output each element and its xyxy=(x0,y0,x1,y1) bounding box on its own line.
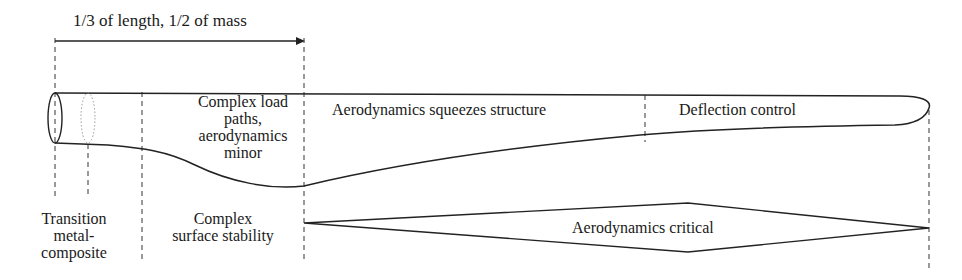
surface-stability-label: Complex surface stability xyxy=(158,210,288,244)
mid-region-label: Aerodynamics squeezes structure xyxy=(332,101,546,118)
blade-diagram xyxy=(0,0,962,280)
root-ellipse xyxy=(48,93,62,143)
aero-critical-label: Aerodynamics critical xyxy=(572,219,714,236)
transition-ellipse xyxy=(81,93,95,143)
root-region-label: Complex load paths, aerodynamics minor xyxy=(184,93,302,161)
length-mass-label: 1/3 of length, 1/2 of mass xyxy=(73,12,247,29)
transition-label: Transition metal- composite xyxy=(22,210,126,261)
tip-region-label: Deflection control xyxy=(679,101,796,118)
